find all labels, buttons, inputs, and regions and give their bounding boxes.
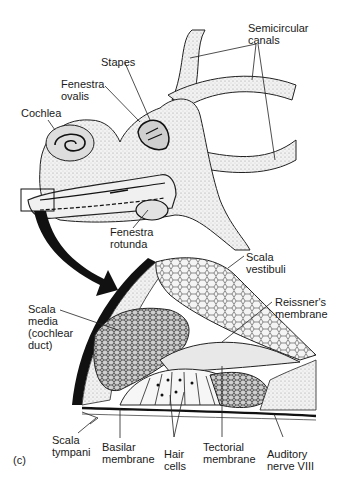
label-scala-media: Scala media (cochlear duct) — [28, 303, 73, 351]
label-reissners-membrane: Reissner's membrane — [275, 296, 328, 320]
inner-ear-illustration — [0, 0, 344, 484]
label-scala-tympani: Scala tympani — [52, 434, 91, 458]
label-hair-cells: Hair cells — [164, 448, 186, 472]
label-fenestra-ovalis: Fenestra ovalis — [61, 78, 104, 102]
label-semicircular-canals: Semicircular canals — [248, 22, 309, 46]
label-cochlea: Cochlea — [21, 107, 61, 119]
label-basilar-membrane: Basilar membrane — [102, 441, 155, 465]
inner-ear-figure: Semicircular canals Stapes Fenestra oval… — [0, 0, 344, 484]
round-window — [136, 200, 168, 220]
panel-label: (c) — [13, 454, 26, 466]
label-scala-vestibuli: Scala vestibuli — [246, 251, 286, 275]
label-fenestra-rotunda: Fenestra rotunda — [110, 226, 153, 250]
label-tectorial-membrane: Tectorial membrane — [203, 441, 256, 465]
label-stapes: Stapes — [101, 56, 135, 68]
magnify-arrow — [34, 211, 118, 296]
label-auditory-nerve: Auditory nerve VIII — [267, 448, 314, 472]
cochlea-spiral — [46, 125, 94, 161]
